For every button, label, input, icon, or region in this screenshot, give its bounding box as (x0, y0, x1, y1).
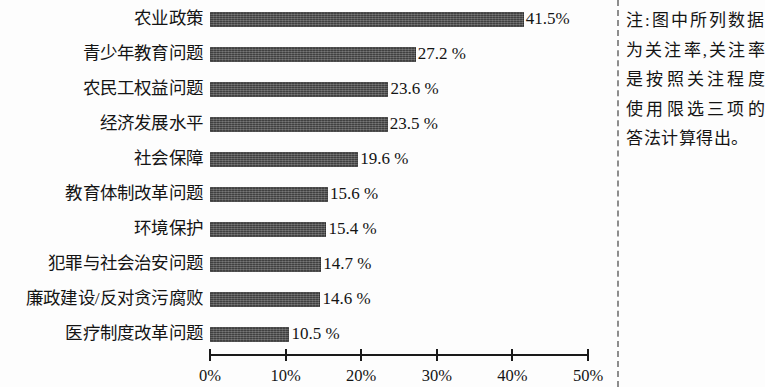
bar-value-label: 14.7 % (323, 254, 371, 274)
bar (210, 47, 416, 62)
category-label: 廉政建设/反对贪污腐败 (0, 290, 203, 308)
x-axis-line (210, 354, 588, 356)
bar-value-label: 15.4 % (328, 219, 376, 239)
bar-container: 19.6 % (203, 144, 617, 174)
bar (210, 12, 524, 27)
bar-container: 14.6 % (203, 284, 617, 314)
bar-container: 14.7 % (203, 249, 617, 279)
bar-row: 环境保护15.4 % (0, 214, 617, 244)
x-axis-tick (285, 349, 287, 361)
chart-note: 注:图中所列数据为关注率,关注率是按照关注程度使用限选三项的答法计算得出。 (626, 6, 765, 154)
category-label: 农民工权益问题 (0, 80, 203, 98)
bar-value-label: 14.6 % (322, 289, 370, 309)
bar (210, 187, 328, 202)
x-axis-tick-label: 40% (497, 366, 527, 386)
horizontal-bar-chart: 农业政策41.5%青少年教育问题27.2 %农民工权益问题23.6 %经济发展水… (0, 0, 617, 387)
x-axis: 0%10%20%30%40%50% (210, 354, 588, 355)
bar-row: 经济发展水平23.5 % (0, 109, 617, 139)
x-axis-tick (209, 349, 211, 361)
bar-value-label: 41.5% (526, 9, 570, 29)
bar-value-label: 23.5 % (390, 114, 438, 134)
bar-container: 15.4 % (203, 214, 617, 244)
bar-container: 23.5 % (203, 109, 617, 139)
category-label: 经济发展水平 (0, 115, 203, 133)
bar-container: 23.6 % (203, 74, 617, 104)
x-axis-tick (360, 349, 362, 361)
bar (210, 117, 388, 132)
bar-container: 27.2 % (203, 39, 617, 69)
category-label: 青少年教育问题 (0, 45, 203, 63)
x-axis-tick-label: 50% (573, 366, 603, 386)
bar-container: 15.6 % (203, 179, 617, 209)
bar (210, 292, 320, 307)
bar-row: 教育体制改革问题15.6 % (0, 179, 617, 209)
category-label: 社会保障 (0, 150, 203, 168)
x-axis-tick (511, 349, 513, 361)
chart-page: 农业政策41.5%青少年教育问题27.2 %农民工权益问题23.6 %经济发展水… (0, 0, 765, 387)
category-label: 环境保护 (0, 220, 203, 238)
bar-row: 社会保障19.6 % (0, 144, 617, 174)
bar-container: 10.5 % (203, 319, 617, 349)
bar-row: 犯罪与社会治安问题14.7 % (0, 249, 617, 279)
bar (210, 152, 358, 167)
category-label: 医疗制度改革问题 (0, 325, 203, 343)
category-label: 农业政策 (0, 10, 203, 28)
bar-row: 农业政策41.5% (0, 4, 617, 34)
x-axis-tick (436, 349, 438, 361)
x-axis-tick-label: 10% (270, 366, 300, 386)
category-label: 犯罪与社会治安问题 (0, 255, 203, 273)
x-axis-tick (587, 349, 589, 361)
bar-value-label: 19.6 % (360, 149, 408, 169)
bar-value-label: 15.6 % (330, 184, 378, 204)
bar-container: 41.5% (203, 4, 617, 34)
bar-row: 廉政建设/反对贪污腐败14.6 % (0, 284, 617, 314)
bar-value-label: 10.5 % (291, 324, 339, 344)
vertical-dashed-divider (617, 0, 619, 387)
bar-value-label: 27.2 % (418, 44, 466, 64)
bar (210, 222, 326, 237)
bar-row: 青少年教育问题27.2 % (0, 39, 617, 69)
category-label: 教育体制改革问题 (0, 185, 203, 203)
x-axis-tick-label: 0% (199, 366, 221, 386)
x-axis-tick-label: 30% (422, 366, 452, 386)
bar-value-label: 23.6 % (390, 79, 438, 99)
bar (210, 327, 289, 342)
bar-row: 农民工权益问题23.6 % (0, 74, 617, 104)
bar-row: 医疗制度改革问题10.5 % (0, 319, 617, 349)
bar (210, 82, 388, 97)
x-axis-tick-label: 20% (346, 366, 376, 386)
bar (210, 257, 321, 272)
